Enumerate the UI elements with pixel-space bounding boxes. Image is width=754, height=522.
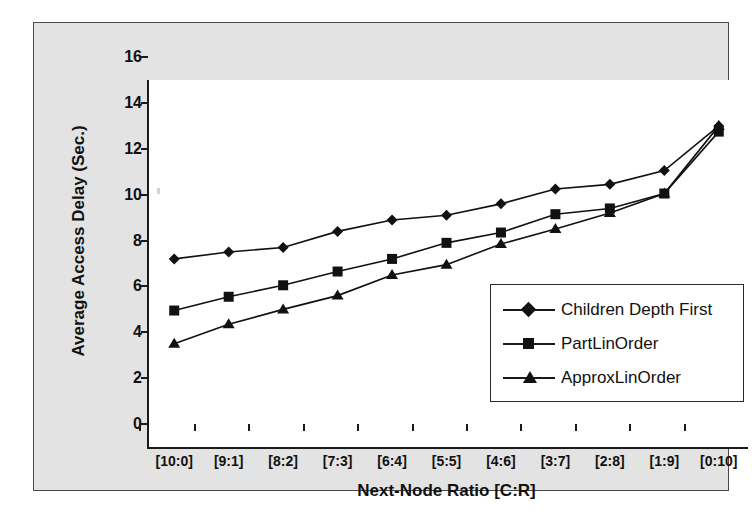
y-tick-mark xyxy=(141,56,148,58)
legend-symbol-triangle-icon xyxy=(501,368,557,388)
legend-label: Children Depth First xyxy=(557,300,712,320)
x-tick-label: [9:1] xyxy=(214,453,244,469)
y-tick-mark xyxy=(141,285,148,287)
x-tick-mark xyxy=(412,424,414,431)
y-tick-label: 10 xyxy=(106,187,142,203)
x-tick-mark xyxy=(303,424,305,431)
y-tick-label: 2 xyxy=(106,370,142,386)
legend-label: ApproxLinOrder xyxy=(557,368,681,388)
legend-item-2[interactable]: PartLinOrder xyxy=(501,329,658,359)
y-axis-ticks: 0246810121416 xyxy=(96,23,142,522)
y-axis-title: Average Access Delay (Sec.) xyxy=(69,76,89,406)
x-tick-mark xyxy=(357,424,359,431)
legend-item-1[interactable]: Children Depth First xyxy=(501,295,712,325)
x-tick-label: [8:2] xyxy=(268,453,298,469)
chart-legend: Children Depth FirstPartLinOrderApproxLi… xyxy=(490,284,744,402)
legend-symbol-square-icon xyxy=(501,334,557,354)
chart-figure: Average Access Delay (Sec.) 024681012141… xyxy=(0,0,754,522)
legend-item-3[interactable]: ApproxLinOrder xyxy=(501,363,681,393)
y-tick-mark xyxy=(141,423,148,425)
y-tick-mark xyxy=(141,331,148,333)
scan-artifact xyxy=(157,188,160,194)
y-tick-mark xyxy=(141,148,148,150)
legend-marker-triangle-icon xyxy=(523,371,537,383)
x-tick-label: [6:4] xyxy=(377,453,407,469)
x-tick-mark xyxy=(139,424,141,431)
x-tick-label: [4:6] xyxy=(486,453,516,469)
y-tick-label: 4 xyxy=(106,324,142,340)
y-tick-mark xyxy=(141,377,148,379)
x-tick-mark xyxy=(194,424,196,431)
x-tick-label: [5:5] xyxy=(432,453,462,469)
y-tick-label: 12 xyxy=(106,141,142,157)
legend-label: PartLinOrder xyxy=(557,334,658,354)
y-tick-label: 0 xyxy=(106,416,142,432)
x-tick-label: [10:0] xyxy=(156,453,193,469)
legend-symbol-diamond-icon xyxy=(501,300,557,320)
y-tick-label: 14 xyxy=(106,95,142,111)
x-tick-label: [2:8] xyxy=(595,453,625,469)
x-tick-mark xyxy=(575,424,577,431)
x-tick-label: [0:10] xyxy=(700,453,737,469)
y-tick-label: 6 xyxy=(106,278,142,294)
y-tick-mark xyxy=(141,240,148,242)
x-tick-mark xyxy=(684,424,686,431)
x-tick-label: [1:9] xyxy=(650,453,680,469)
y-tick-mark xyxy=(141,194,148,196)
y-tick-label: 8 xyxy=(106,233,142,249)
x-tick-label: [3:7] xyxy=(541,453,571,469)
x-tick-mark xyxy=(248,424,250,431)
x-tick-mark xyxy=(629,424,631,431)
x-axis-title: Next-Node Ratio [C:R] xyxy=(147,481,746,501)
x-tick-mark xyxy=(520,424,522,431)
legend-marker-square-icon xyxy=(523,338,534,349)
y-tick-mark xyxy=(141,102,148,104)
x-axis-ticks: [10:0][9:1][8:2][7:3][6:4][5:5][4:6][3:7… xyxy=(147,453,746,483)
y-tick-label: 16 xyxy=(106,49,142,65)
legend-marker-diamond-icon xyxy=(521,302,537,318)
x-tick-label: [7:3] xyxy=(323,453,353,469)
x-tick-mark xyxy=(466,424,468,431)
chart-plate: Average Access Delay (Sec.) 024681012141… xyxy=(33,22,729,491)
